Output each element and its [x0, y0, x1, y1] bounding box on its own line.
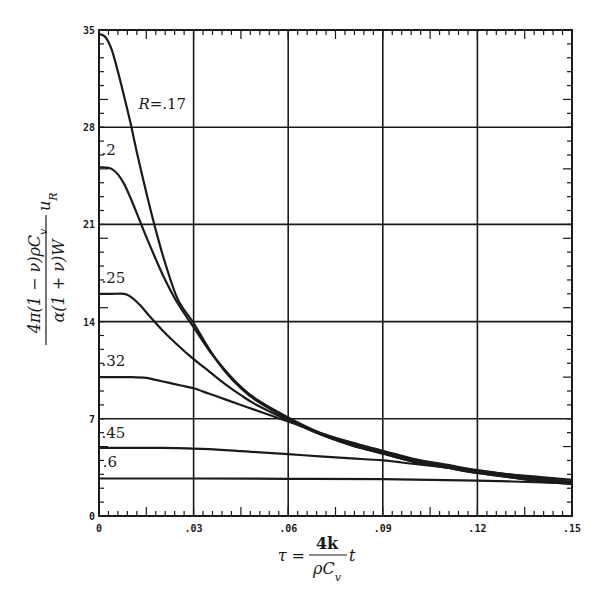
- x-label-tail: t: [349, 546, 356, 565]
- y-tick-label: 28: [83, 122, 95, 133]
- svg-text:uR: uR: [35, 192, 60, 211]
- curve-r-32: [99, 377, 572, 482]
- y-tick-label: 21: [83, 219, 95, 230]
- x-tick-label: .06: [279, 523, 297, 534]
- y-tick-label: 7: [89, 414, 95, 425]
- y-tick-labels: 0714212835: [83, 25, 95, 522]
- y-tick-label: 0: [89, 511, 95, 522]
- x-label-denominator: ρC: [312, 559, 335, 578]
- curve-label: .2: [102, 141, 116, 159]
- curve-r-2: [99, 167, 572, 482]
- x-tick-label: .03: [185, 523, 203, 534]
- x-label-numerator: 4k: [316, 534, 339, 553]
- x-tick-label: .09: [374, 523, 392, 534]
- x-tick-label: .15: [563, 523, 581, 534]
- y-label-tail-sub: R: [47, 192, 60, 201]
- curve-label: .32: [102, 352, 126, 370]
- y-axis-label: 4π(1 − ν)ρCv α(1 + ν)W uR: [25, 192, 68, 345]
- svg-text:ρCv: ρCv: [312, 559, 342, 584]
- x-tick-label: 0: [96, 523, 102, 534]
- chart: R=.17.2.25.32.45.6 0.03.06.09.12.15 0714…: [0, 0, 600, 605]
- y-tick-label: 35: [83, 25, 95, 36]
- y-label-num-sub: v: [37, 228, 50, 235]
- curve-label: R=.17: [137, 95, 186, 113]
- curve-label: .25: [102, 269, 126, 287]
- x-label-lhs: τ =: [278, 546, 305, 565]
- y-label-numerator: 4π(1 − ν)ρC: [25, 235, 44, 334]
- curve-label: .6: [103, 453, 117, 471]
- curve-r-6: [99, 478, 572, 483]
- y-label-tail: u: [35, 201, 54, 211]
- y-tick-label: 14: [83, 317, 95, 328]
- curve-labels: R=.17.2.25.32.45.6: [102, 95, 187, 471]
- y-label-denominator: α(1 + ν)W: [49, 238, 68, 323]
- curve-label: .45: [102, 424, 126, 442]
- x-axis-label: τ = 4k ρCv t: [278, 534, 356, 584]
- x-tick-labels: 0.03.06.09.12.15: [96, 523, 581, 534]
- x-tick-label: .12: [468, 523, 486, 534]
- x-label-den-sub: v: [335, 571, 342, 584]
